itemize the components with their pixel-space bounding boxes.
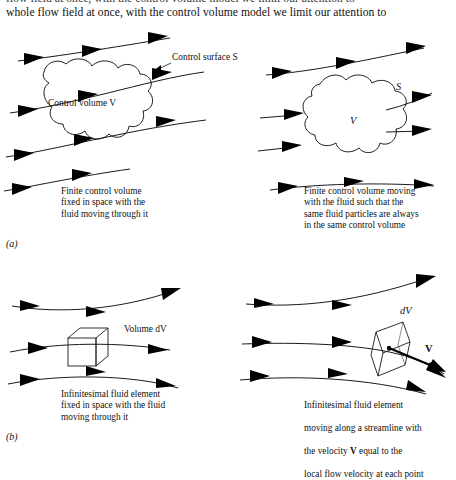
streamline-arrowhead [24,53,44,65]
subfigure-label-b: (b) [6,431,18,442]
streamline-arrowhead [412,125,432,136]
fluid-element-cube [68,328,108,366]
streamline-arrowhead [82,45,102,57]
streamline [6,120,206,157]
volume-dv-label: Volume dV [124,324,167,334]
dv-label: dV [400,305,413,316]
caption-bottom-right: Infinitesimal fluid element moving along… [304,389,456,480]
streamline-arrowhead [336,57,356,69]
velocity-label: V [425,343,433,354]
caption-line-1: Infinitesimal fluid element [304,400,403,410]
streamline-arrowhead [328,368,348,378]
caption-line-3-post: equal to the [357,446,403,456]
control-volume-label: Control volume V [48,98,116,108]
streamline-arrowhead [416,274,436,288]
streamline-arrowhead [14,149,34,161]
surface-label-s: S [396,81,402,92]
streamline-arrowhead [72,169,92,181]
volume-label-v: V [350,115,358,126]
streamline-arrowhead [254,298,274,308]
streamline-arrowhead [252,336,272,348]
body-text-line: whole flow field at once, with the contr… [6,5,452,20]
caption-velocity-symbol: V [350,446,357,456]
streamline-arrowhead [412,91,432,103]
panel-infinitesimal-element-moving: dV V [228,262,456,387]
streamline-arrowhead [86,366,106,376]
caption-line-4: local flow velocity at each point [304,469,424,479]
control-volume-boundary-moving [303,75,406,153]
streamline-arrowhead [282,141,302,152]
subfigure-label-a: (a) [6,238,18,249]
caption-top-left: Finite control volume fixed in space wit… [61,186,211,220]
streamline-arrowhead [12,183,32,195]
streamline [12,290,176,310]
panel-finite-control-volume-fixed: Control surface S Control volume V [0,28,230,178]
caption-top-right: Finite control volume moving with the fl… [304,186,456,232]
streamline [246,278,428,305]
body-text-block: flow field at once, with the control vol… [0,0,456,26]
streamline-arrowhead [28,342,48,354]
caption-bottom-left: Infinitesimal fluid element fixed in spa… [61,389,221,423]
velocity-vector-arrowhead [427,359,446,372]
panel-finite-control-volume-moving: S V [228,28,456,178]
streamline-arrowhead [332,300,352,310]
panel-infinitesimal-element-fixed: Volume dV [0,262,230,387]
streamline-arrowhead [18,105,38,117]
streamline-arrowhead [148,32,168,44]
streamline-arrowhead [278,182,298,194]
streamline-arrowhead [20,374,40,386]
caption-line-2: moving along a streamline with [304,423,422,433]
caption-line-3-pre: the velocity [304,446,350,456]
streamline-arrowhead [250,370,270,382]
streamline-arrowhead [284,109,304,120]
streamline-arrowhead [161,288,181,300]
